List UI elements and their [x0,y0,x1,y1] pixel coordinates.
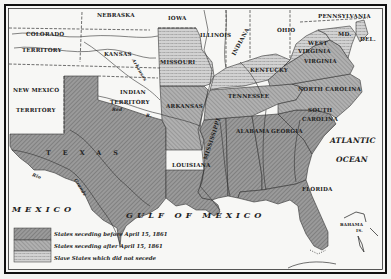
svg-text:TEXAS: TEXAS [46,149,130,157]
legend-label-slave: Slave States which did not secede [54,255,157,261]
svg-text:KENTUCKY: KENTUCKY [250,67,289,73]
legend-label-after: States seceding after April 15, 1861 [54,243,163,250]
legend: States seceding before April 15, 1861 St… [14,228,168,262]
svg-text:NEBRASKA: NEBRASKA [97,12,135,18]
svg-text:TERRITORY: TERRITORY [110,99,150,105]
svg-text:VIRGINIA: VIRGINIA [303,58,337,64]
svg-text:TENNESSEE: TENNESSEE [228,93,269,99]
svg-text:MISSOURI: MISSOURI [160,59,196,65]
svg-text:PENNSYLVANIA: PENNSYLVANIA [318,13,371,19]
svg-text:NEW MEXICO: NEW MEXICO [13,87,59,93]
svg-text:ATLANTIC: ATLANTIC [329,136,376,145]
svg-text:INDIAN: INDIAN [120,89,146,95]
secession-map: NEBRASKA IOWA ILLINOIS INDIANA OHIO PENN… [0,0,391,279]
svg-text:GULF OF MEXICO: GULF OF MEXICO [126,210,265,220]
legend-swatch-after [14,240,51,251]
svg-text:ILLINOIS: ILLINOIS [200,32,231,38]
svg-text:VIRGINIA: VIRGINIA [297,48,331,54]
svg-text:ARKANSAS: ARKANSAS [165,103,203,109]
svg-text:LOUISIANA: LOUISIANA [172,162,211,168]
svg-text:TERRITORY: TERRITORY [16,107,56,113]
svg-text:R.: R. [145,113,152,118]
svg-text:OHIO: OHIO [277,27,295,33]
svg-text:FLORIDA: FLORIDA [302,186,333,192]
svg-text:BAHAMA: BAHAMA [340,222,364,227]
svg-text:NORTH CAROLINA: NORTH CAROLINA [298,86,362,92]
svg-text:MD.: MD. [338,31,351,37]
svg-text:IS.: IS. [356,228,363,233]
svg-text:SOUTH: SOUTH [308,107,333,113]
legend-swatch-slave [14,251,51,262]
svg-text:KANSAS: KANSAS [104,51,132,57]
svg-text:Red: Red [111,107,123,112]
svg-text:OCEAN: OCEAN [336,155,369,164]
svg-text:DEL.: DEL. [360,36,376,42]
region-arkansas [160,86,208,150]
svg-text:ALABAMA: ALABAMA [235,128,270,134]
svg-text:MEXICO: MEXICO [11,204,75,214]
svg-text:COLORADO: COLORADO [26,31,64,37]
svg-text:GEORGIA: GEORGIA [271,128,303,134]
svg-text:CAROLINA: CAROLINA [302,116,338,122]
svg-text:IOWA: IOWA [168,15,187,21]
svg-text:TERRITORY: TERRITORY [22,47,62,53]
legend-label-before: States seceding before April 15, 1861 [54,231,168,238]
svg-text:WEST: WEST [307,40,328,46]
legend-swatch-before [14,228,51,240]
